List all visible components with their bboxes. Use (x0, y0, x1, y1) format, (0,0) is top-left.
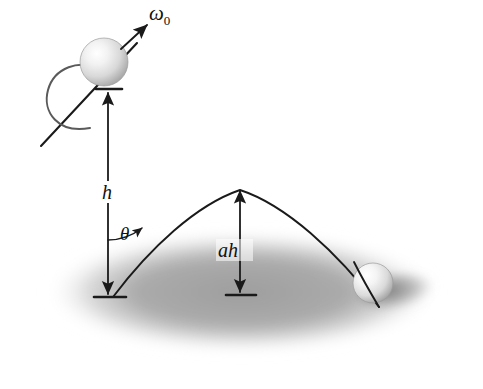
bounce-height-label-group: ah (216, 239, 253, 261)
physics-diagram: ω0 h θ ah (0, 0, 483, 389)
diagram-canvas: ω0 h θ ah (0, 0, 483, 389)
angle-label: θ (120, 223, 129, 244)
drop-height-label: h (102, 181, 112, 203)
spinning-ball-top (80, 38, 128, 86)
omega-label: ω0 (149, 1, 170, 28)
drop-height-label-group: h (99, 181, 118, 203)
bounce-height-label: ah (218, 239, 238, 261)
